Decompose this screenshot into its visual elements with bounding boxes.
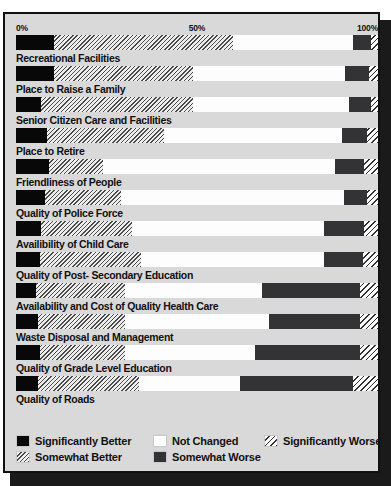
bar-segment-som-worse [353, 35, 371, 50]
legend-item[interactable]: Not Changed [153, 433, 238, 449]
bar-segment-sig-worse [353, 376, 378, 391]
legend-swatch-icon [16, 435, 30, 447]
bar-segment-sig-worse [371, 97, 378, 112]
bar-segment-som-better [40, 345, 125, 360]
bar-category-label: Quality of Police Force [16, 205, 378, 221]
bar-segment-sig-better [16, 128, 47, 143]
bar-category-label: Recreational Facilities [16, 50, 378, 66]
bar-segment-som-worse [255, 345, 360, 360]
legend-item[interactable]: Somewhat Better [16, 449, 122, 465]
bar-segment-som-worse [349, 97, 371, 112]
bar-segment-not-changed [193, 97, 349, 112]
bar-row [16, 283, 378, 298]
bar-segment-som-worse [344, 190, 368, 205]
bar-segment-sig-worse [360, 314, 378, 329]
bar-track [16, 221, 378, 236]
bar-segment-not-changed [125, 345, 255, 360]
legend-row-secondary: Somewhat BetterSomewhat Worse [16, 449, 378, 465]
bar-track [16, 190, 378, 205]
bar-track [16, 97, 378, 112]
bar-row [16, 35, 378, 50]
bar-category-label: Place to Raise a Family [16, 81, 378, 97]
legend-item[interactable]: Somewhat Worse [153, 449, 261, 465]
legend-swatch-icon [264, 435, 278, 447]
legend-label: Somewhat Better [35, 451, 122, 463]
bar-row [16, 221, 378, 236]
bar-track [16, 314, 378, 329]
bar-track [16, 128, 378, 143]
legend-row-primary: Significantly BetterNot ChangedSignifica… [16, 433, 378, 449]
bar-segment-sig-better [16, 314, 38, 329]
bar-row [16, 376, 378, 391]
bar-segment-som-better [40, 252, 141, 267]
legend-item[interactable]: Significantly Worse [264, 433, 380, 449]
legend-item[interactable]: Significantly Better [16, 433, 131, 449]
legend-label: Somewhat Worse [172, 451, 261, 463]
bar-segment-sig-worse [363, 252, 377, 267]
bar-track [16, 66, 378, 81]
bar-segment-som-worse [345, 66, 369, 81]
bar-category-label: Availability and Cost of Quality Health … [16, 298, 378, 314]
bar-segment-not-changed [193, 66, 345, 81]
bar-category-label: Quality of Post- Secondary Education [16, 267, 378, 283]
axis-tick-0: 0% [16, 23, 28, 33]
bar-category-label: Quality of Grade Level Education [16, 360, 378, 376]
bar-segment-sig-better [16, 376, 38, 391]
bar-category-label: Friendliness of People [16, 174, 378, 190]
bar-segment-sig-better [16, 66, 54, 81]
bar-segment-not-changed [125, 283, 263, 298]
legend-label: Not Changed [172, 435, 238, 447]
legend-label: Significantly Better [35, 435, 131, 447]
bar-segment-som-better [54, 66, 193, 81]
bar-segment-som-worse [342, 128, 367, 143]
bar-segment-not-changed [103, 159, 335, 174]
bar-segment-not-changed [121, 190, 344, 205]
bar-segment-not-changed [125, 314, 270, 329]
bar-segment-not-changed [141, 252, 324, 267]
bar-segment-som-better [47, 128, 165, 143]
bar-category-label: Place to Retire [16, 143, 378, 159]
axis-tick-50: 50% [189, 23, 205, 33]
bar-segment-som-better [41, 97, 193, 112]
bar-category-label: Senior Citizen Care and Facilities [16, 112, 378, 128]
chart-frame: 0% 50% 100% Recreational FacilitiesPlace… [3, 12, 380, 473]
plot-area: 0% 50% 100% Recreational FacilitiesPlace… [16, 23, 378, 423]
bar-rows-container: Recreational FacilitiesPlace to Raise a … [16, 35, 378, 407]
bar-category-label: Waste Disposal and Management [16, 329, 378, 345]
bar-track [16, 283, 378, 298]
bar-segment-som-worse [324, 221, 364, 236]
bar-row [16, 252, 378, 267]
bar-segment-sig-better [16, 190, 45, 205]
legend-swatch-icon [16, 451, 30, 463]
bar-row [16, 159, 378, 174]
bar-segment-sig-better [16, 35, 54, 50]
bar-segment-som-worse [335, 159, 364, 174]
bar-segment-som-better [45, 190, 121, 205]
bar-category-label: Quality of Roads [16, 391, 378, 407]
chart-legend: Significantly BetterNot ChangedSignifica… [16, 433, 378, 467]
bar-segment-not-changed [233, 35, 352, 50]
bar-segment-not-changed [139, 376, 240, 391]
bar-segment-som-worse [324, 252, 364, 267]
bar-category-label: Availibility of Child Care [16, 236, 378, 252]
bar-segment-som-better [38, 376, 139, 391]
bar-segment-not-changed [132, 221, 324, 236]
bar-segment-sig-worse [367, 190, 378, 205]
legend-swatch-icon [153, 435, 167, 447]
bar-segment-som-better [54, 35, 233, 50]
bar-row [16, 128, 378, 143]
bar-segment-sig-worse [364, 159, 378, 174]
bar-segment-som-better [36, 283, 125, 298]
bar-track [16, 252, 378, 267]
bar-segment-sig-better [16, 252, 40, 267]
bar-segment-sig-worse [371, 35, 378, 50]
bar-track [16, 345, 378, 360]
bar-segment-som-better [41, 221, 132, 236]
bar-segment-som-better [49, 159, 103, 174]
bar-row [16, 345, 378, 360]
bar-track [16, 35, 378, 50]
bar-segment-sig-worse [360, 345, 378, 360]
bar-segment-som-better [38, 314, 125, 329]
axis-tick-100: 100% [357, 23, 378, 33]
bar-segment-sig-better [16, 159, 49, 174]
